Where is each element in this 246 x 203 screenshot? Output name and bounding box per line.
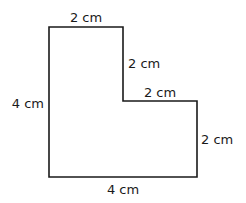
l-shape-outline [49, 27, 197, 177]
l-shape-diagram: 2 cm 2 cm 2 cm 2 cm 4 cm 4 cm [0, 0, 246, 203]
label-top: 2 cm [70, 10, 102, 25]
label-right: 2 cm [201, 132, 233, 147]
label-bottom: 4 cm [107, 182, 139, 197]
label-inner-horizontal: 2 cm [144, 85, 176, 100]
label-inner-vertical: 2 cm [128, 56, 160, 71]
label-left: 4 cm [12, 96, 44, 111]
